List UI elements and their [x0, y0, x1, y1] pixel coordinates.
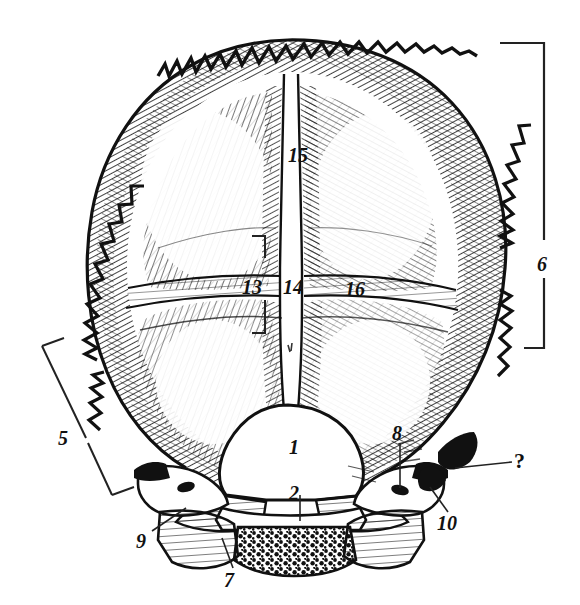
label-7: 7 [224, 570, 234, 590]
label-8: 8 [392, 423, 402, 443]
label-6: 6 [537, 254, 547, 274]
figure-canvas: 12567891013141516? [0, 0, 580, 605]
label-5: 5 [58, 428, 68, 448]
label-14: 14 [283, 277, 303, 297]
cancellous-bone-block [234, 527, 356, 576]
label-13: 13 [242, 277, 262, 297]
skull-engraving [0, 0, 580, 605]
label-question: ? [514, 450, 525, 472]
label-2: 2 [289, 483, 299, 503]
label-9: 9 [136, 531, 146, 551]
label-10: 10 [437, 513, 457, 533]
label-1: 1 [289, 437, 299, 457]
label-15: 15 [288, 145, 308, 165]
right-mastoid-block [344, 511, 424, 569]
label-16: 16 [345, 279, 365, 299]
